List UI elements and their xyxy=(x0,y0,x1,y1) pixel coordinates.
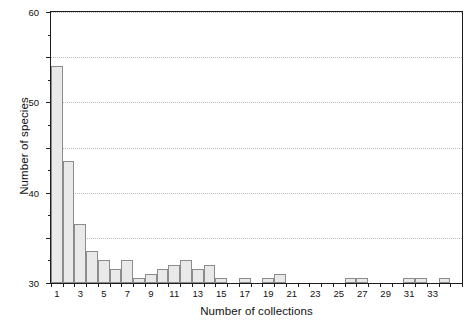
bar xyxy=(145,274,157,283)
x-tick-14 xyxy=(215,283,216,287)
bar xyxy=(262,278,274,283)
x-tick-31 xyxy=(415,283,416,287)
x-tick-33 xyxy=(439,283,440,287)
bar xyxy=(239,278,251,283)
x-tick-label-1: 1 xyxy=(47,289,67,299)
bar xyxy=(192,269,204,283)
x-tick-1 xyxy=(63,283,64,287)
x-tick-label-21: 21 xyxy=(282,289,302,299)
x-tick-30 xyxy=(403,283,404,287)
chart-title xyxy=(0,0,473,8)
gridline-y-30 xyxy=(51,148,462,149)
gridline-y-40 xyxy=(51,102,462,103)
bar xyxy=(168,265,180,283)
x-tick-label-15: 15 xyxy=(211,289,231,299)
bar xyxy=(345,278,357,283)
x-tick-label-33: 33 xyxy=(423,289,443,299)
bar xyxy=(133,278,145,283)
bar xyxy=(74,224,86,283)
bar xyxy=(157,269,169,283)
x-tick-19 xyxy=(274,283,275,287)
bar xyxy=(86,251,98,283)
x-tick-24 xyxy=(333,283,334,287)
x-tick-7 xyxy=(133,283,134,287)
y-tick-label-50: 50 xyxy=(5,98,39,108)
x-tick-9 xyxy=(157,283,158,287)
bar xyxy=(180,260,192,283)
x-tick-2 xyxy=(74,283,75,287)
x-tick-29 xyxy=(392,283,393,287)
y-tick-minor-55 xyxy=(48,35,51,36)
x-tick-13 xyxy=(204,283,205,287)
x-tick-label-3: 3 xyxy=(70,289,90,299)
x-tick-label-11: 11 xyxy=(164,289,184,299)
x-tick-3 xyxy=(86,283,87,287)
x-tick-27 xyxy=(368,283,369,287)
bar xyxy=(215,278,227,283)
gridline-y-10 xyxy=(51,238,462,239)
x-tick-label-23: 23 xyxy=(305,289,325,299)
x-tick-10 xyxy=(168,283,169,287)
x-tick-4 xyxy=(98,283,99,287)
x-tick-label-5: 5 xyxy=(94,289,114,299)
bar xyxy=(274,274,286,283)
x-tick-21 xyxy=(298,283,299,287)
x-tick-23 xyxy=(321,283,322,287)
gridline-y-60 xyxy=(51,12,462,13)
x-tick-label-19: 19 xyxy=(258,289,278,299)
bar xyxy=(356,278,368,283)
y-tick-60: 60 xyxy=(46,12,51,13)
bar xyxy=(439,278,451,283)
bar xyxy=(121,260,133,283)
bar xyxy=(403,278,415,283)
x-tick-label-17: 17 xyxy=(235,289,255,299)
x-tick-label-13: 13 xyxy=(188,289,208,299)
x-tick-label-31: 31 xyxy=(399,289,419,299)
y-tick-label-40: 40 xyxy=(5,189,39,199)
bar xyxy=(110,269,122,283)
bar xyxy=(51,66,63,283)
x-tick-16 xyxy=(239,283,240,287)
plot-area: 0102030405060 xyxy=(50,11,463,284)
x-tick-label-9: 9 xyxy=(141,289,161,299)
x-tick-20 xyxy=(286,283,287,287)
x-tick-26 xyxy=(356,283,357,287)
x-tick-34 xyxy=(450,283,451,287)
y-axis-label: Number of species xyxy=(18,36,30,256)
plot-inner: 0102030405060 xyxy=(51,12,462,283)
gridline-y-50 xyxy=(51,57,462,58)
x-tick-label-25: 25 xyxy=(329,289,349,299)
y-tick-label-60: 60 xyxy=(5,8,39,18)
x-tick-label-27: 27 xyxy=(352,289,372,299)
x-tick-12 xyxy=(192,283,193,287)
x-tick-35 xyxy=(462,283,463,287)
x-tick-18 xyxy=(262,283,263,287)
x-tick-15 xyxy=(227,283,228,287)
x-axis-label: Number of collections xyxy=(50,305,463,317)
x-tick-5 xyxy=(110,283,111,287)
x-tick-32 xyxy=(427,283,428,287)
bar xyxy=(63,161,75,283)
x-tick-17 xyxy=(251,283,252,287)
y-tick-label-30: 30 xyxy=(5,279,39,289)
x-tick-8 xyxy=(145,283,146,287)
x-tick-label-29: 29 xyxy=(376,289,396,299)
bar xyxy=(415,278,427,283)
x-tick-11 xyxy=(180,283,181,287)
x-tick-25 xyxy=(345,283,346,287)
gridline-y-20 xyxy=(51,193,462,194)
x-tick-6 xyxy=(121,283,122,287)
bar xyxy=(204,265,216,283)
x-tick-28 xyxy=(380,283,381,287)
x-tick-22 xyxy=(309,283,310,287)
chart-figure: Number of species 0102030405060 13579111… xyxy=(0,0,473,325)
y-tick-50: 50 xyxy=(46,57,51,58)
bar xyxy=(98,260,110,283)
x-tick-0 xyxy=(51,283,52,287)
x-tick-label-7: 7 xyxy=(117,289,137,299)
